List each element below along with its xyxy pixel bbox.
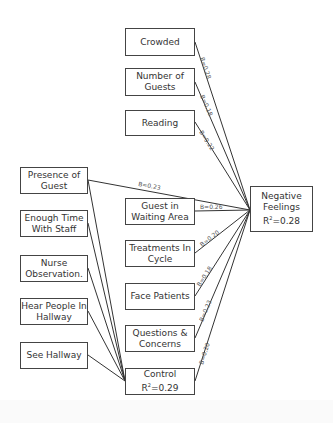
node-label: Negative Feelings xyxy=(258,191,306,213)
node-enough-time-with-staff: Enough Time With Staff xyxy=(20,210,88,237)
node-number-of-guests: Number of Guests xyxy=(125,68,195,96)
edge-guest-in-waiting-area xyxy=(195,210,250,211)
node-label: Enough Time With Staff xyxy=(21,213,87,235)
node-label: Reading xyxy=(142,118,179,129)
edge-label-questions-concerns: B=0.23 xyxy=(197,299,212,323)
edge-label-treatments-in-cycle: B=0.20 xyxy=(198,228,220,247)
edge-label-reading: B=0.22 xyxy=(198,129,216,152)
node-crowded: Crowded xyxy=(125,28,195,56)
node-label: See Hallway xyxy=(26,350,81,361)
node-questions-and-concerns: Questions & Concerns xyxy=(125,325,195,352)
node-label: Crowded xyxy=(140,37,180,48)
node-reading: Reading xyxy=(125,110,195,136)
edge-presence-of-guest-control xyxy=(88,180,125,381)
node-presence-of-guest: Presence of Guest xyxy=(20,167,88,194)
edge-label-guest-in-waiting-area: B=0.26 xyxy=(200,203,223,210)
node-label: Control xyxy=(144,369,177,380)
r-squared: R2=0.29 xyxy=(141,380,178,394)
edge-nurse-observation-control xyxy=(88,268,125,381)
node-guest-in-waiting-area: Guest in Waiting Area xyxy=(125,198,195,225)
node-see-hallway: See Hallway xyxy=(20,342,88,369)
edge-label-face-patients: B=0.18 xyxy=(195,265,213,288)
node-treatments-in-cycle: Treatments In Cycle xyxy=(125,240,195,267)
r-squared: R2=0.28 xyxy=(263,213,300,227)
edge-label-number-of-guests: B=0.18 xyxy=(199,94,215,118)
node-label: Questions & Concerns xyxy=(126,328,194,350)
node-label: Face Patients xyxy=(130,291,189,302)
bottom-band xyxy=(0,400,333,423)
node-label: Guest in Waiting Area xyxy=(126,201,194,223)
node-hear-people-in-hallway: Hear People In Hallway xyxy=(20,298,88,325)
node-label: Number of Guests xyxy=(126,71,194,93)
node-label: Nurse Observation. xyxy=(21,258,87,280)
node-negative-feelings: Negative Feelings R2=0.28 xyxy=(250,186,313,232)
edge-label-crowded: B=0.28 xyxy=(199,56,213,80)
edge-label-control: B=0.20 xyxy=(197,342,211,366)
node-face-patients: Face Patients xyxy=(125,283,195,310)
edge-label-presence-of-guest: B=0.23 xyxy=(138,180,162,191)
node-control: Control R2=0.29 xyxy=(125,368,195,395)
edge-enough-time-control xyxy=(88,223,125,381)
edge-hear-people-control xyxy=(88,311,125,381)
node-label: Hear People In Hallway xyxy=(21,301,87,323)
node-label: Treatments In Cycle xyxy=(126,243,194,265)
node-nurse-observation: Nurse Observation. xyxy=(20,255,88,282)
node-label: Presence of Guest xyxy=(21,170,87,192)
